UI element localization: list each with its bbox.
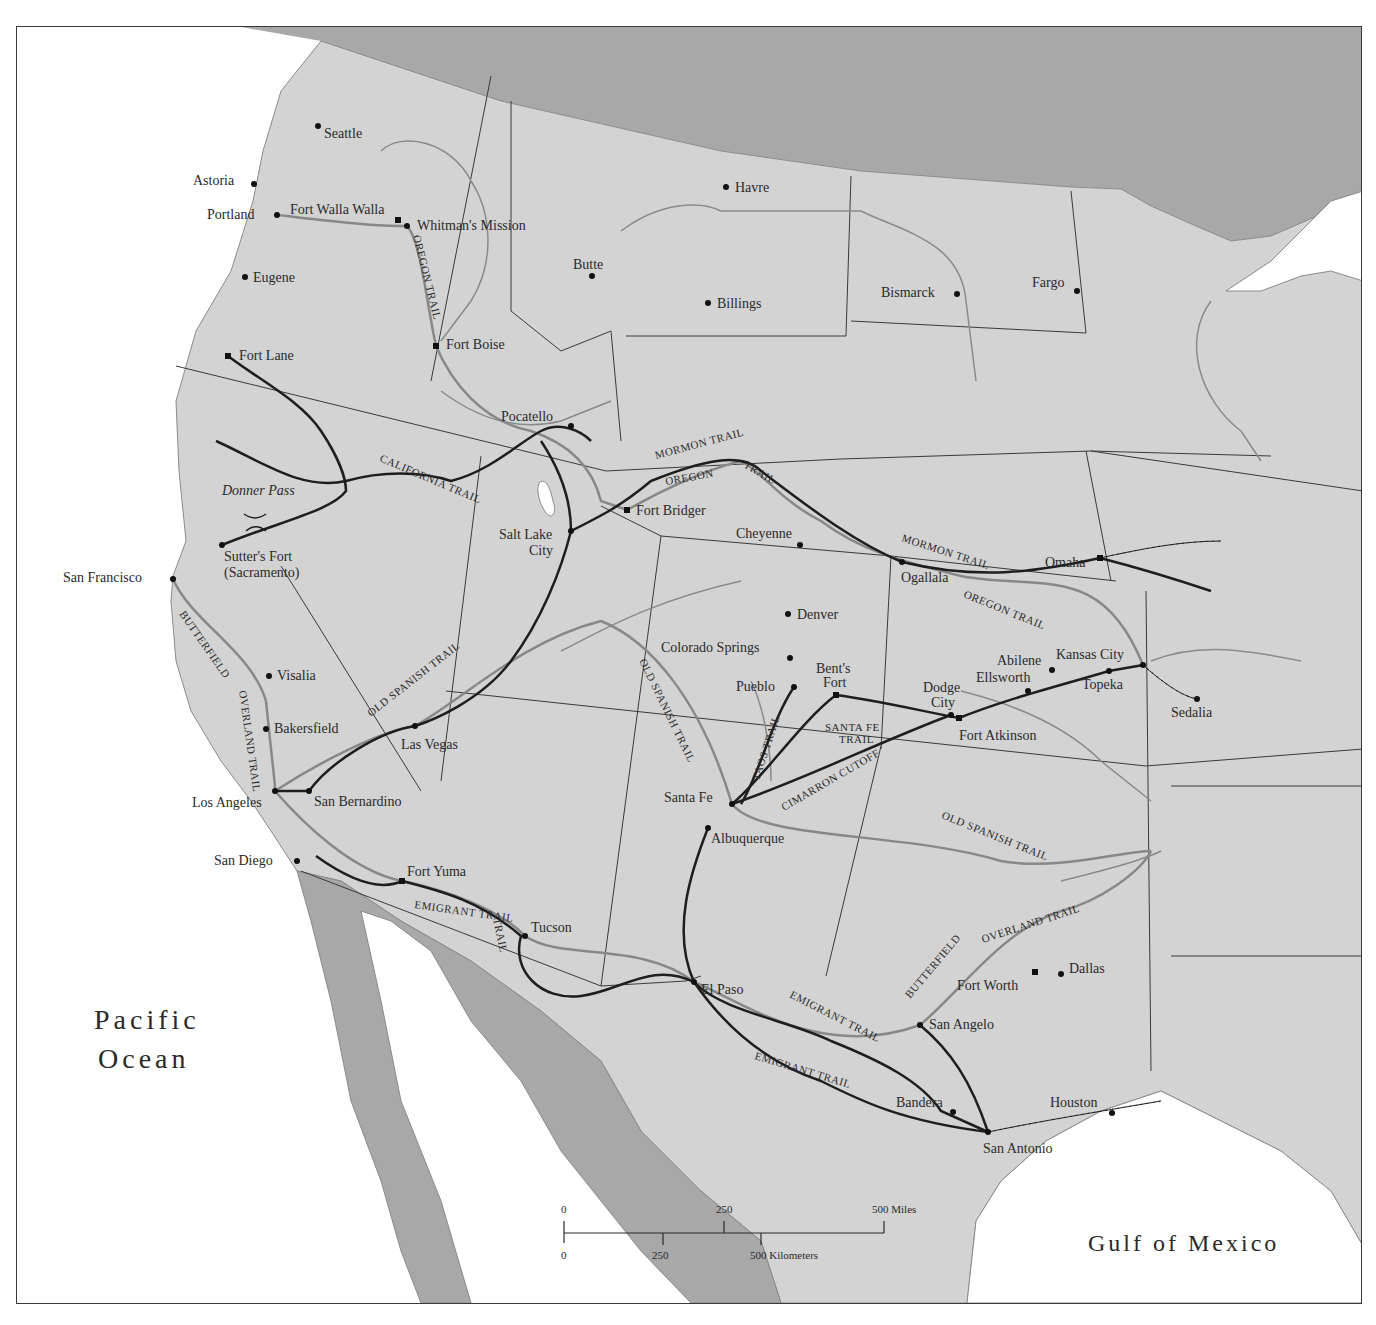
city-label: (Sacramento) bbox=[224, 565, 300, 581]
city-label: Butte bbox=[573, 257, 603, 272]
scale-km-250: 250 bbox=[652, 1249, 669, 1261]
city-marker-dot[interactable] bbox=[412, 723, 418, 729]
city-label: Billings bbox=[717, 296, 761, 311]
city-label: Fort Worth bbox=[957, 978, 1018, 993]
fort-marker-square[interactable] bbox=[624, 507, 630, 513]
city-marker-dot[interactable] bbox=[404, 223, 410, 229]
city-marker-dot[interactable] bbox=[1194, 696, 1200, 702]
city-label: Topeka bbox=[1082, 677, 1124, 692]
fort-marker-square[interactable] bbox=[1032, 969, 1038, 975]
city-marker-dot[interactable] bbox=[1106, 668, 1112, 674]
city-label: Denver bbox=[797, 607, 839, 622]
city-label: Visalia bbox=[277, 668, 317, 683]
city-marker-dot[interactable] bbox=[315, 123, 321, 129]
fort-marker-square[interactable] bbox=[956, 715, 962, 721]
city-marker-dot[interactable] bbox=[1049, 667, 1055, 673]
scale-miles-250: 250 bbox=[716, 1203, 733, 1215]
city-marker-dot[interactable] bbox=[306, 788, 312, 794]
city-marker-dot[interactable] bbox=[589, 273, 595, 279]
city-marker-dot[interactable] bbox=[948, 712, 954, 718]
city-label: Santa Fe bbox=[664, 790, 713, 805]
map-frame: SeattleAstoriaPortlandFort Walla WallaWh… bbox=[16, 26, 1362, 1304]
city-marker-dot[interactable] bbox=[691, 979, 697, 985]
scale-miles-0: 0 bbox=[561, 1203, 567, 1215]
city-marker-dot[interactable] bbox=[950, 1109, 956, 1115]
city-marker-dot[interactable] bbox=[266, 673, 272, 679]
city-marker-dot[interactable] bbox=[263, 726, 269, 732]
city-label: Portland bbox=[207, 207, 254, 222]
fort-marker-square[interactable] bbox=[433, 343, 439, 349]
city-label: San Antonio bbox=[983, 1141, 1053, 1156]
city-label: Las Vegas bbox=[401, 737, 458, 752]
city-marker-dot[interactable] bbox=[985, 1129, 991, 1135]
fort-marker-square[interactable] bbox=[395, 217, 401, 223]
city-marker-dot[interactable] bbox=[522, 933, 528, 939]
city-marker-dot[interactable] bbox=[219, 542, 225, 548]
city-label: Sedalia bbox=[1171, 705, 1213, 720]
city-marker-dot[interactable] bbox=[1058, 971, 1064, 977]
city-label: Fort Yuma bbox=[407, 864, 467, 879]
fort-marker-square[interactable] bbox=[399, 878, 405, 884]
city-marker-dot[interactable] bbox=[170, 576, 176, 582]
city-marker-dot[interactable] bbox=[242, 274, 248, 280]
city-marker-dot[interactable] bbox=[1140, 662, 1146, 668]
city-marker-dot[interactable] bbox=[1025, 688, 1031, 694]
city-label: Whitman's Mission bbox=[417, 218, 526, 233]
city-label: Salt Lake bbox=[499, 527, 552, 542]
city-label: Havre bbox=[735, 180, 769, 195]
city-label: Fort bbox=[823, 675, 846, 690]
city-marker-dot[interactable] bbox=[274, 212, 280, 218]
city-label: Ellsworth bbox=[976, 670, 1030, 685]
city-label: Colorado Springs bbox=[661, 640, 759, 655]
city-label: Dallas bbox=[1069, 961, 1105, 976]
city-label: Omaha bbox=[1045, 555, 1086, 570]
city-marker-dot[interactable] bbox=[272, 788, 278, 794]
city-marker-dot[interactable] bbox=[954, 291, 960, 297]
city-marker-dot[interactable] bbox=[723, 184, 729, 190]
city-marker-dot[interactable] bbox=[917, 1022, 923, 1028]
city-label: Fort Boise bbox=[446, 337, 505, 352]
city-label: Tucson bbox=[531, 920, 572, 935]
gulf-of-mexico-label: Gulf of Mexico bbox=[1088, 1230, 1279, 1256]
city-marker-dot[interactable] bbox=[729, 801, 735, 807]
city-marker-dot[interactable] bbox=[791, 684, 797, 690]
city-marker-dot[interactable] bbox=[568, 423, 574, 429]
city-label: Fort Atkinson bbox=[959, 728, 1036, 743]
city-label: El Paso bbox=[701, 982, 743, 997]
city-label: Donner Pass bbox=[221, 483, 295, 498]
trails-map[interactable]: SeattleAstoriaPortlandFort Walla WallaWh… bbox=[17, 27, 1362, 1304]
city-label: Fort Lane bbox=[239, 348, 294, 363]
city-label: Fort Walla Walla bbox=[290, 202, 385, 217]
fort-marker-square[interactable] bbox=[225, 353, 231, 359]
city-label: City bbox=[529, 543, 553, 558]
city-label: Seattle bbox=[324, 126, 362, 141]
city-label: Abilene bbox=[997, 653, 1041, 668]
city-marker-dot[interactable] bbox=[251, 181, 257, 187]
city-label: Kansas City bbox=[1056, 647, 1124, 662]
city-marker-dot[interactable] bbox=[899, 559, 905, 565]
city-marker-dot[interactable] bbox=[797, 542, 803, 548]
city-label: Bismarck bbox=[881, 285, 935, 300]
city-marker-dot[interactable] bbox=[787, 655, 793, 661]
city-marker-dot[interactable] bbox=[1109, 1110, 1115, 1116]
city-label: Sutter's Fort bbox=[224, 549, 292, 564]
city-label: Astoria bbox=[193, 173, 235, 188]
fort-marker-square[interactable] bbox=[1097, 555, 1103, 561]
city-label: Eugene bbox=[253, 270, 295, 285]
city-label: Houston bbox=[1050, 1095, 1097, 1110]
city-marker-dot[interactable] bbox=[785, 611, 791, 617]
fort-marker-square[interactable] bbox=[833, 692, 839, 698]
pacific-ocean-label-line2: Ocean bbox=[98, 1043, 190, 1074]
city-label: Bent's bbox=[816, 661, 850, 676]
city-marker-dot[interactable] bbox=[705, 300, 711, 306]
city-marker-dot[interactable] bbox=[294, 858, 300, 864]
city-marker-dot[interactable] bbox=[568, 528, 574, 534]
city-label: San Francisco bbox=[63, 570, 142, 585]
city-label: San Angelo bbox=[929, 1017, 994, 1032]
city-label: Fargo bbox=[1032, 275, 1064, 290]
city-label: City bbox=[931, 695, 955, 710]
city-label: Pocatello bbox=[501, 409, 553, 424]
city-marker-dot[interactable] bbox=[1074, 288, 1080, 294]
city-label: San Diego bbox=[214, 853, 273, 868]
city-label: Fort Bridger bbox=[636, 503, 706, 518]
